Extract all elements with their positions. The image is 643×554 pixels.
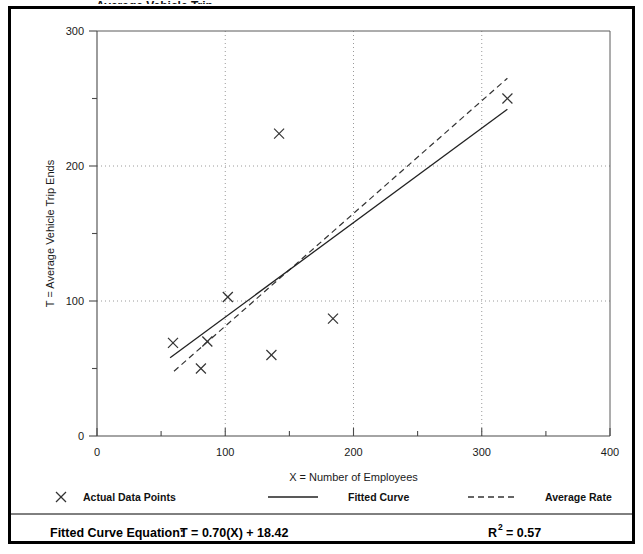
equation-value: T = 0.70(X) + 18.42 [180, 526, 288, 540]
y-tick-label: 100 [66, 295, 84, 307]
data-point-marker [266, 350, 276, 360]
grid-lines [97, 31, 610, 436]
y-tick-labels: 0 100 200 300 [66, 25, 84, 442]
legend-label-actual-data-points: Actual Data Points [83, 491, 176, 503]
r-squared-value: = 0.57 [506, 526, 541, 540]
y-axis [89, 31, 97, 436]
data-point-marker [202, 337, 212, 347]
x-tick-label: 100 [216, 446, 234, 458]
legend-label-fitted-curve: Fitted Curve [348, 491, 409, 503]
y-tick-label: 200 [66, 160, 84, 172]
data-point-marker [168, 338, 178, 348]
x-tick-label: 200 [344, 446, 362, 458]
y-tick-label: 300 [66, 25, 84, 37]
x-axis-label: X = Number of Employees [289, 471, 418, 483]
footer-r-squared: R 2 = 0.57 [488, 522, 541, 540]
y-tick-label: 0 [78, 430, 84, 442]
r-squared-base: R [488, 526, 497, 540]
footer-equation: Fitted Curve Equation: T = 0.70(X) + 18.… [50, 526, 288, 540]
x-tick-label: 400 [601, 446, 619, 458]
x-tick-label: 300 [473, 446, 491, 458]
data-point-marker [196, 364, 206, 374]
data-point-marker [274, 129, 284, 139]
fitted-curve-line [170, 109, 507, 357]
legend-marker-actual-data-points [56, 492, 66, 502]
chart-legend: Actual Data Points Fitted Curve Average … [56, 491, 612, 503]
legend-label-average-rate: Average Rate [545, 491, 612, 503]
x-tick-labels: 0 100 200 300 400 [94, 446, 619, 458]
y-axis-label: T = Average Vehicle Trip Ends [44, 159, 56, 307]
x-axis [97, 428, 610, 436]
data-point-marker [223, 292, 233, 302]
average-rate-line [174, 78, 507, 371]
x-tick-label: 0 [94, 446, 100, 458]
equation-label: Fitted Curve Equation: [50, 526, 184, 540]
r-squared-exponent: 2 [498, 522, 503, 532]
data-point-marker [502, 94, 512, 104]
plot-area-wrapper: 0 100 200 300 0 100 200 300 400 T = Aver… [0, 0, 643, 554]
chart-figure: Average Vehicle Trip Ends vs: [0, 0, 643, 554]
data-point-marker [328, 314, 338, 324]
